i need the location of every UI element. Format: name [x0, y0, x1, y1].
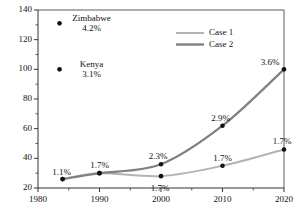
- x-tick-label: 1980: [18, 195, 58, 204]
- data-point-label: 3.6%: [254, 58, 286, 67]
- data-point-label: 1.7%: [266, 137, 296, 146]
- data-point-label: 1.1%: [46, 168, 78, 177]
- annotation-value: 3.1%: [64, 70, 120, 79]
- x-tick-label: 2010: [203, 195, 243, 204]
- chart-plot-area: [0, 0, 296, 214]
- data-point-marker: [282, 147, 287, 152]
- annotation-value: 4.2%: [64, 24, 120, 33]
- data-point-marker: [159, 174, 164, 179]
- data-point-marker: [282, 67, 287, 72]
- y-tick-label: 40: [0, 153, 32, 162]
- x-tick-label: 1990: [80, 195, 120, 204]
- data-point-label: 2.3%: [142, 152, 174, 161]
- data-point-marker: [159, 162, 164, 167]
- chart-container: 20406080100120140 19801990200020102020 1…: [0, 0, 296, 214]
- annotation-markers-group: [57, 21, 62, 72]
- data-point-label: 1.7%: [144, 184, 176, 193]
- legend-swatches-group: [176, 33, 204, 45]
- annotation-zimbabwe: Zimbabwe4.2%: [64, 14, 120, 33]
- data-point-marker: [220, 123, 225, 128]
- data-point-label: 1.7%: [207, 154, 239, 163]
- annotation-kenya: Kenya3.1%: [64, 60, 120, 79]
- data-point-marker: [60, 177, 65, 182]
- x-tick-label: 2000: [141, 195, 181, 204]
- data-point-marker: [220, 163, 225, 168]
- axes-frame: [38, 10, 284, 188]
- data-point-marker: [97, 171, 102, 176]
- data-point-label: 2.9%: [205, 114, 237, 123]
- y-tick-label: 80: [0, 94, 32, 103]
- y-axis-ticks: [34, 10, 38, 188]
- y-tick-label: 60: [0, 124, 32, 133]
- y-tick-label: 140: [0, 5, 32, 14]
- legend-label: Case 2: [209, 40, 233, 49]
- annotation-marker: [57, 67, 62, 72]
- legend-label: Case 1: [209, 28, 233, 37]
- y-tick-label: 20: [0, 183, 32, 192]
- y-tick-label: 120: [0, 35, 32, 44]
- y-tick-label: 100: [0, 64, 32, 73]
- data-point-label: 1.7%: [84, 161, 116, 170]
- annotation-marker: [57, 21, 62, 26]
- x-tick-label: 2020: [264, 195, 296, 204]
